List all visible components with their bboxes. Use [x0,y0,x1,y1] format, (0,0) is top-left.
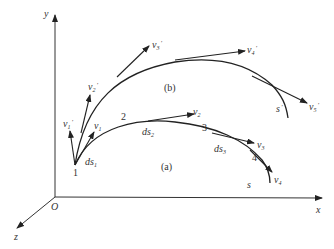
x-axis-label: x [316,205,320,215]
v2-arrow [148,114,194,121]
v3p-label: v3' [152,40,162,51]
s-prime-end-label: s' [276,104,282,114]
ds3-label: ds3 [214,144,226,155]
v4p-label: v4' [247,45,257,56]
curve-a [75,114,272,183]
v3-label: v3 [257,140,264,151]
y-axis-label: y [44,9,48,19]
v3-arrow [212,133,254,143]
v1-label: v1 [94,121,101,132]
origin-label: O [51,202,58,212]
ds2-label: ds2 [142,127,154,138]
caption-a: (a) [161,162,172,172]
v2p-label: v2' [88,82,98,93]
v5p-label: v5' [309,102,319,113]
v4-label: v4 [274,175,281,186]
x-axis [55,197,322,198]
v5p-arrow [252,76,307,103]
streamline-diagram: y x z O 1 2 3 4 ds1 ds2 ds3 v1 v2 v3 v4 … [0,0,334,249]
point-1: 1 [73,168,78,178]
point-3: 3 [202,123,207,133]
v4p-arrow [175,51,245,60]
point-2: 2 [121,112,126,122]
point-4: 4 [252,153,257,163]
s-end-label: s [247,180,251,190]
z-axis-label: z [14,232,18,242]
z-axis [17,197,55,228]
ds1-label: ds1 [85,157,97,168]
caption-b: (b) [164,83,176,93]
curve-b [70,46,307,165]
v1p-arrow [70,131,75,165]
v2-label: v2 [193,107,200,118]
v1p-label: v1' [63,119,73,130]
v3p-arrow [117,46,149,77]
